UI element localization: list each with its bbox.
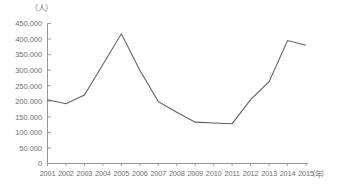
data-series-line (48, 34, 307, 124)
y-axis-tick-label: 300.000 (15, 66, 42, 75)
y-axis-tick-label: 0 (38, 159, 42, 168)
x-axis-tick-label: 2012 (243, 169, 259, 178)
x-axis-tick-label: 2001 (40, 169, 56, 178)
x-axis-tick-label: 2007 (150, 169, 166, 178)
x-axis-tick-label: 2003 (77, 169, 93, 178)
y-axis-tick-labels: 450.000400.000350.000300.000250.000200.0… (15, 19, 42, 168)
chart-plot-area: 450.000400.000350.000300.000250.000200.0… (0, 0, 342, 188)
x-axis-tick-label: 2009 (187, 169, 203, 178)
y-axis-tick-label: 450.000 (15, 19, 42, 28)
x-axis-tick-label: 2008 (169, 169, 185, 178)
x-axis-tick-label: 2004 (95, 169, 111, 178)
y-axis-tick-label: 100.000 (15, 128, 42, 137)
y-axis-tick-label: 150.000 (15, 113, 42, 122)
y-axis-tick-marks (48, 24, 52, 148)
x-axis-tick-label: 2002 (58, 169, 74, 178)
x-axis-tick-label: 2014 (280, 169, 296, 178)
y-axis-tick-label: 50.000 (19, 144, 42, 153)
x-axis-tick-label: 2013 (261, 169, 277, 178)
line-chart-figure: （人） 450.000400.000350.000300.000250.0002… (0, 0, 342, 188)
x-axis-tick-label: 2005 (114, 169, 130, 178)
y-axis-tick-label: 350.000 (15, 50, 42, 59)
y-axis-tick-label: 400.000 (15, 35, 42, 44)
x-axis-tick-label: 2006 (132, 169, 148, 178)
x-axis-tick-label: 2010 (206, 169, 222, 178)
x-axis-tick-label: 2011 (225, 169, 240, 178)
y-axis-tick-label: 250.000 (15, 82, 42, 91)
x-axis-tick-labels: 2001200220032004200520062007200820092010… (40, 169, 314, 178)
x-axis-unit-label: （年） (308, 168, 328, 179)
y-axis-tick-label: 200.000 (15, 97, 42, 106)
